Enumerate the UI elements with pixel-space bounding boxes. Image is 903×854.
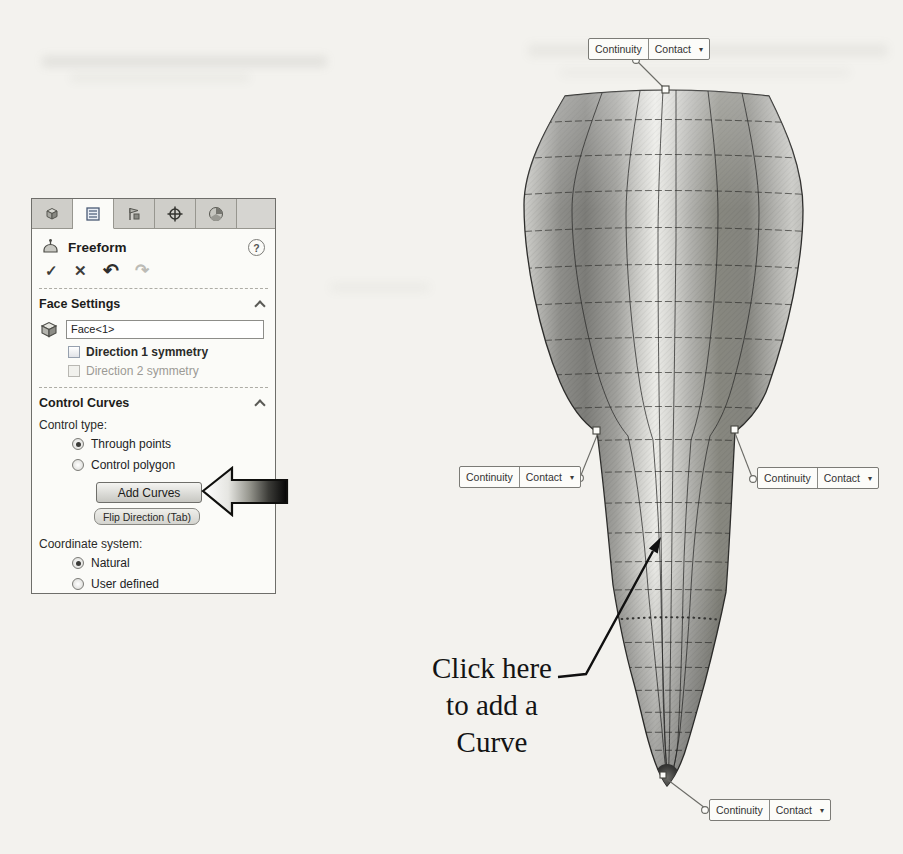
contact-value: Contact (526, 471, 562, 483)
callout-continuity-right[interactable]: Continuity Contact ▾ (757, 467, 879, 489)
contact-value: Contact (655, 43, 691, 55)
contact-dropdown[interactable]: Contact ▾ (818, 468, 878, 488)
top-highlight (510, 80, 820, 220)
annotation-line: Click here (412, 650, 572, 687)
chevron-down-icon: ▾ (699, 45, 703, 54)
continuity-label: Continuity (758, 468, 818, 488)
annotation-line: Curve (412, 724, 572, 761)
annotation-text: Click here to add a Curve (412, 650, 572, 761)
contact-dropdown[interactable]: Contact ▾ (649, 39, 709, 59)
surface-tip (654, 764, 680, 794)
chevron-down-icon: ▾ (570, 473, 574, 482)
annotation-line: to add a (412, 687, 572, 724)
continuity-label: Continuity (460, 467, 520, 487)
chevron-down-icon: ▾ (868, 474, 872, 483)
contact-value: Contact (776, 804, 812, 816)
chevron-down-icon: ▾ (820, 806, 824, 815)
callout-continuity-bottom[interactable]: Continuity Contact ▾ (709, 799, 831, 821)
continuity-label: Continuity (710, 800, 770, 820)
contact-dropdown[interactable]: Contact ▾ (520, 467, 580, 487)
callout-continuity-left[interactable]: Continuity Contact ▾ (459, 466, 581, 488)
callout-continuity-top[interactable]: Continuity Contact ▾ (588, 38, 710, 60)
block-arrow-shape (203, 468, 287, 515)
callout-block-arrow (198, 462, 293, 522)
continuity-label: Continuity (589, 39, 649, 59)
contact-value: Contact (824, 472, 860, 484)
contact-dropdown[interactable]: Contact ▾ (770, 800, 830, 820)
